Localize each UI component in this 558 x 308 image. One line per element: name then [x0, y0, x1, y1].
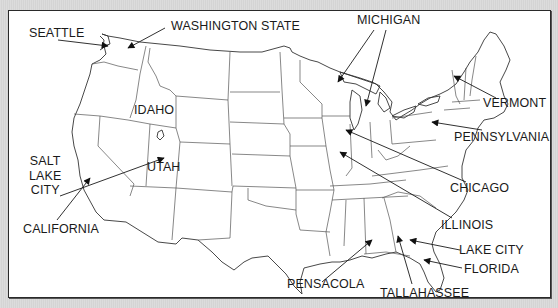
label-pennsylvania: PENNSYLVANIA	[454, 130, 549, 144]
arrow-tallahassee	[398, 236, 412, 284]
label-california: CALIFORNIA	[23, 222, 99, 236]
label-chicago: CHICAGO	[450, 181, 509, 195]
state-borders	[74, 46, 480, 256]
arrow-seattle	[58, 40, 108, 46]
arrow-chicago	[346, 130, 466, 182]
arrow-lake-city	[410, 240, 460, 250]
label-tallahassee: TALLAHASSEE	[380, 286, 469, 300]
arrow-florida	[424, 260, 462, 268]
label-michigan: MICHIGAN	[357, 13, 420, 27]
label-utah: UTAH	[147, 160, 181, 174]
arrows	[57, 28, 496, 284]
arrow-pennsylvania	[432, 122, 482, 130]
label-washington-state: WASHINGTON STATE	[171, 19, 300, 33]
arrow-pensacola	[322, 240, 372, 282]
label-lake-city: LAKE CITY	[459, 243, 524, 257]
arrow-michigan-upper	[338, 30, 374, 82]
label-illinois: ILLINOIS	[441, 218, 493, 232]
arrow-california	[57, 178, 90, 220]
label-seattle: SEATTLE	[29, 26, 84, 40]
arrow-washington-state	[128, 28, 165, 48]
label-florida: FLORIDA	[464, 262, 519, 276]
label-salt-lake-city: SALT LAKE CITY	[29, 154, 61, 198]
label-vermont: VERMONT	[483, 96, 546, 110]
arrow-vermont	[454, 76, 496, 98]
label-idaho: IDAHO	[134, 103, 174, 117]
label-pensacola: PENSACOLA	[287, 277, 364, 291]
